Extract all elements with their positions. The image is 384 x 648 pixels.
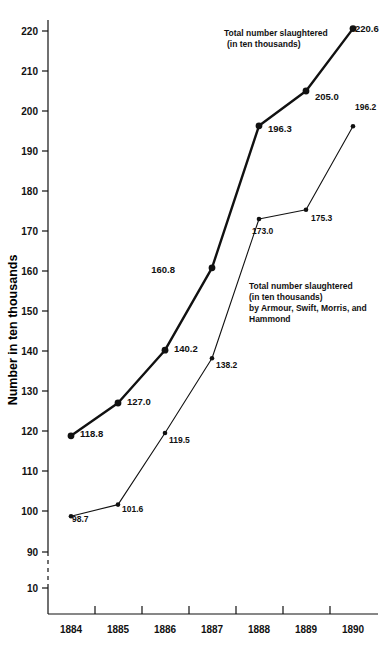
x-tick-label-1888: 1888 (248, 624, 271, 635)
y-tick-label-180: 180 (21, 186, 38, 197)
series-total-value-labels: 118.8 127.0 140.2 160.8 196.3 205.0 220.… (80, 23, 379, 439)
value-label-total-1884: 118.8 (80, 428, 103, 439)
series-total-markers (68, 25, 357, 439)
series-total-line (71, 29, 353, 436)
y-tick-label-130: 130 (21, 386, 38, 397)
data-point-marker (209, 264, 216, 271)
value-label-total-1889: 205.0 (315, 91, 339, 102)
data-point-marker (163, 431, 168, 436)
y-axis-tick-labels: 220 210 200 190 180 170 160 150 140 130 … (21, 26, 38, 594)
series-big-four (69, 124, 356, 519)
x-axis-tick-labels: 1884 1885 1886 1887 1888 1889 1890 (60, 624, 365, 635)
data-point-marker (68, 432, 75, 439)
data-point-marker (116, 502, 121, 507)
data-point-marker (303, 88, 310, 95)
data-point-marker (256, 122, 263, 129)
annotation-total-line-2: (in ten thousands) (227, 39, 301, 49)
y-tick-label-170: 170 (21, 226, 38, 237)
x-tick-label-1885: 1885 (107, 624, 130, 635)
data-point-marker (351, 124, 356, 129)
value-label-big4-1889: 175.3 (311, 213, 333, 223)
value-label-big4-1885: 101.6 (122, 504, 144, 514)
value-label-total-1890: 220.6 (355, 23, 379, 34)
y-tick-label-100: 100 (21, 506, 38, 517)
y-axis-ticks (42, 31, 48, 588)
y-tick-label-160: 160 (21, 266, 38, 277)
chart-svg: Number in ten thousands (0, 0, 384, 648)
x-tick-label-1890: 1890 (342, 624, 365, 635)
y-tick-label-200: 200 (21, 106, 38, 117)
value-label-total-1888: 196.3 (268, 123, 292, 134)
y-tick-label-120: 120 (21, 426, 38, 437)
slaughter-statistics-line-chart: Number in ten thousands (0, 0, 384, 648)
value-label-total-1885: 127.0 (127, 396, 151, 407)
x-tick-label-1886: 1886 (154, 624, 177, 635)
y-tick-label-190: 190 (21, 146, 38, 157)
x-tick-label-1884: 1884 (60, 624, 83, 635)
value-label-big4-1887: 138.2 (216, 360, 238, 370)
y-tick-label-210: 210 (21, 66, 38, 77)
series-big-four-markers (69, 124, 356, 519)
data-point-marker (210, 356, 215, 361)
annotation-big-four-line-1: Total number slaughtered (249, 281, 353, 291)
annotation-big-four-line-4: Hammond (249, 314, 291, 324)
value-label-big4-1884: 98.7 (72, 514, 89, 524)
y-tick-label-140: 140 (21, 346, 38, 357)
annotation-big-four-line-3: by Armour, Swift, Morris, and (249, 303, 367, 313)
annotation-big-four: Total number slaughtered (in ten thousan… (249, 281, 367, 324)
y-tick-label-110: 110 (22, 466, 39, 477)
data-point-marker (115, 400, 122, 407)
value-label-big4-1888: 173.0 (252, 226, 274, 236)
series-total (68, 25, 357, 439)
y-tick-label-150: 150 (21, 306, 38, 317)
y-tick-label-220: 220 (21, 26, 38, 37)
y-axis-title: Number in ten thousands (6, 255, 20, 406)
value-label-big4-1886: 119.5 (169, 435, 190, 445)
x-tick-label-1889: 1889 (295, 624, 318, 635)
annotation-big-four-line-2: (in ten thousands) (249, 292, 323, 302)
x-axis-ticks (95, 606, 330, 614)
value-label-total-1887: 160.8 (151, 264, 175, 275)
y-axis-title-text: Number in ten thousands (6, 255, 20, 406)
series-big-four-line (71, 126, 353, 516)
annotation-total: Total number slaughtered (in ten thousan… (224, 28, 328, 49)
data-point-marker (304, 208, 309, 213)
data-point-marker (257, 217, 262, 222)
annotation-total-line-1: Total number slaughtered (224, 28, 328, 38)
y-tick-label-90: 90 (27, 547, 39, 558)
y-tick-label-10: 10 (27, 583, 39, 594)
value-label-total-1886: 140.2 (174, 343, 198, 354)
data-point-marker (162, 347, 169, 354)
value-label-big4-1890: 196.2 (355, 102, 377, 112)
x-tick-label-1887: 1887 (201, 624, 224, 635)
